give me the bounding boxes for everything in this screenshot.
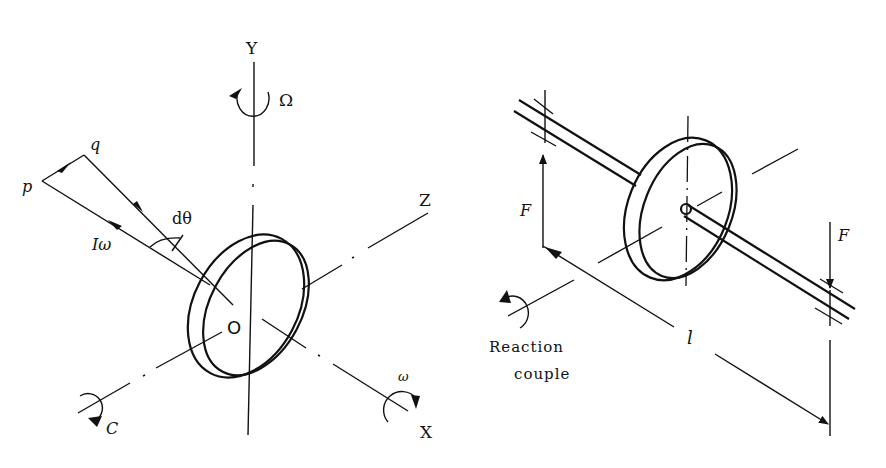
reaction-couple-label-line2: couple [514, 365, 570, 383]
z-axis-end [78, 383, 130, 413]
right-bearing-bottom [815, 308, 842, 324]
z-axis-upper [368, 213, 428, 248]
reaction-couple-label-line1: Reaction [489, 338, 564, 356]
axis-z-label: Z [419, 190, 431, 210]
axis-x-label: X [420, 422, 433, 442]
x-axis-dash [318, 355, 320, 356]
z-axis-dash-2 [143, 375, 145, 376]
left-shaft-top [519, 100, 641, 175]
x-axis-outer [333, 364, 408, 411]
z-axis-dash [352, 257, 354, 258]
disc-axis-inner [697, 192, 722, 206]
y-axis-lower [248, 205, 253, 435]
angular-momentum-label: Iω [91, 235, 111, 254]
new-angular-momentum-vector [84, 155, 233, 305]
disc-axis-end [508, 280, 574, 316]
spin-arrow-icon [384, 392, 416, 422]
force-left-label: F [519, 201, 532, 220]
origin-label: O [227, 317, 241, 338]
couple-label: C [106, 419, 118, 438]
disc-back-face [164, 214, 327, 397]
left-shaft-bottom [514, 111, 636, 186]
dimension-arrowhead-left-icon [545, 247, 562, 259]
right-bearing-top [820, 279, 843, 293]
disc-center-axis [686, 116, 688, 286]
angle-label: dθ [172, 209, 192, 228]
spin-arrowhead-icon [411, 395, 420, 409]
spin-rate-label: ω [398, 369, 409, 384]
vector-start-label: p [22, 177, 32, 196]
precession-rate-label: Ω [279, 90, 293, 110]
right-shaft-bottom [684, 216, 849, 319]
length-label: l [687, 327, 693, 348]
couple-arrowhead-icon [88, 416, 102, 427]
pq-arrowhead-icon [57, 162, 71, 173]
axis-y-label: Y [245, 38, 258, 58]
precession-arrowhead-icon [229, 88, 242, 99]
left-gyroscope-figure: Y Ω Z C X ω O [22, 38, 433, 442]
couple-arrow-icon [80, 394, 102, 420]
vector-end-label: q [90, 135, 100, 154]
right-shaft-figure: F F Reaction couple l [489, 90, 855, 436]
dimension-line-right [715, 354, 828, 424]
precession-arrow-icon [237, 92, 269, 116]
disc-axis-upper [752, 149, 798, 174]
right-disc-front [621, 130, 755, 293]
gyroscope-diagram: Y Ω Z C X ω O [0, 0, 886, 468]
force-right-label: F [837, 226, 850, 245]
right-disc-back [604, 122, 752, 297]
